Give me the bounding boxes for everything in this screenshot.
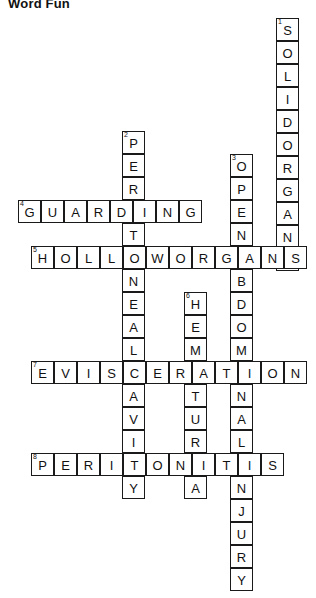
- crossword-cell[interactable]: N: [284, 361, 307, 384]
- crossword-cell[interactable]: R: [122, 177, 145, 200]
- crossword-cell[interactable]: A: [192, 361, 215, 384]
- crossword-cell[interactable]: N: [261, 246, 284, 269]
- crossword-cell[interactable]: L: [230, 430, 253, 453]
- crossword-cell[interactable]: R: [276, 156, 299, 179]
- crossword-cell[interactable]: I: [122, 430, 145, 453]
- crossword-cell[interactable]: R: [169, 361, 192, 384]
- cell-number: 1: [278, 18, 282, 26]
- crossword-cell[interactable]: C: [123, 361, 146, 384]
- crossword-cell[interactable]: S: [261, 453, 284, 476]
- crossword-cell[interactable]: H6: [184, 292, 207, 315]
- crossword-cell[interactable]: H5: [31, 246, 54, 269]
- crossword-cell[interactable]: T: [215, 361, 238, 384]
- crossword-cell[interactable]: Y: [122, 476, 145, 499]
- crossword-cell[interactable]: E: [122, 292, 145, 315]
- crossword-cell[interactable]: L: [77, 246, 100, 269]
- crossword-cell[interactable]: E: [230, 200, 253, 223]
- crossword-cell[interactable]: A: [122, 384, 145, 407]
- crossword-cell[interactable]: A: [238, 246, 261, 269]
- crossword-cell[interactable]: J: [230, 499, 253, 522]
- crossword-cell[interactable]: A: [122, 315, 145, 338]
- crossword-cell[interactable]: I: [238, 453, 261, 476]
- crossword-cell[interactable]: E: [146, 361, 169, 384]
- crossword-cell[interactable]: N: [169, 453, 192, 476]
- crossword-cell[interactable]: R: [77, 453, 100, 476]
- crossword-cell[interactable]: O: [261, 361, 284, 384]
- crossword-cell[interactable]: P: [230, 177, 253, 200]
- crossword-cell[interactable]: I: [192, 453, 215, 476]
- crossword-cell[interactable]: N: [276, 225, 299, 248]
- crossword-cell[interactable]: M: [230, 338, 253, 361]
- crossword-cell[interactable]: O: [54, 246, 77, 269]
- cell-letter: S: [101, 362, 122, 383]
- crossword-cell[interactable]: Y: [230, 568, 253, 591]
- crossword-cell[interactable]: O3: [230, 154, 253, 177]
- crossword-cell[interactable]: A: [184, 476, 207, 499]
- crossword-cell[interactable]: A: [64, 200, 87, 223]
- crossword-cell[interactable]: P8: [31, 453, 54, 476]
- crossword-cell[interactable]: M: [184, 338, 207, 361]
- cell-letter: I: [193, 454, 214, 475]
- cell-letter: E: [147, 362, 168, 383]
- cell-letter: P: [231, 178, 252, 199]
- crossword-cell[interactable]: E7: [31, 361, 54, 384]
- crossword-cell[interactable]: N: [230, 223, 253, 246]
- cell-letter: R: [78, 454, 99, 475]
- crossword-cell[interactable]: R: [184, 430, 207, 453]
- crossword-cell[interactable]: L: [100, 246, 123, 269]
- crossword-cell[interactable]: T: [123, 453, 146, 476]
- crossword-cell[interactable]: O: [123, 246, 146, 269]
- crossword-cell[interactable]: I: [133, 200, 156, 223]
- cell-letter: R: [123, 178, 144, 199]
- crossword-cell[interactable]: I: [100, 453, 123, 476]
- crossword-cell[interactable]: B: [230, 269, 253, 292]
- crossword-cell[interactable]: S1: [276, 18, 299, 41]
- crossword-cell[interactable]: G: [276, 179, 299, 202]
- crossword-cell[interactable]: U: [230, 522, 253, 545]
- crossword-cell[interactable]: P2: [122, 131, 145, 154]
- crossword-cell[interactable]: S: [284, 246, 307, 269]
- crossword-cell[interactable]: R: [192, 246, 215, 269]
- crossword-cell[interactable]: W: [146, 246, 169, 269]
- crossword-cell[interactable]: L: [122, 338, 145, 361]
- crossword-cell[interactable]: A: [230, 407, 253, 430]
- crossword-cell[interactable]: T: [215, 453, 238, 476]
- crossword-cell[interactable]: I: [77, 361, 100, 384]
- crossword-cell[interactable]: L: [276, 64, 299, 87]
- cell-letter: D: [277, 111, 298, 132]
- crossword-cell[interactable]: R: [87, 200, 110, 223]
- crossword-cell[interactable]: G: [215, 246, 238, 269]
- crossword-cell[interactable]: D: [230, 292, 253, 315]
- crossword-cell[interactable]: A: [276, 202, 299, 225]
- crossword-cell[interactable]: V: [122, 407, 145, 430]
- crossword-cell[interactable]: O: [276, 41, 299, 64]
- crossword-cell[interactable]: S: [100, 361, 123, 384]
- crossword-cell[interactable]: O: [169, 246, 192, 269]
- cell-letter: O: [231, 316, 252, 337]
- crossword-cell[interactable]: O: [230, 315, 253, 338]
- crossword-cell[interactable]: O: [146, 453, 169, 476]
- crossword-cell[interactable]: G: [179, 200, 202, 223]
- crossword-cell[interactable]: I: [238, 361, 261, 384]
- crossword-cell[interactable]: U: [184, 407, 207, 430]
- cell-letter: E: [123, 155, 144, 176]
- crossword-cell[interactable]: E: [184, 315, 207, 338]
- crossword-cell[interactable]: N: [230, 476, 253, 499]
- crossword-cell[interactable]: N: [122, 269, 145, 292]
- crossword-cell[interactable]: R: [230, 545, 253, 568]
- crossword-cell[interactable]: U: [41, 200, 64, 223]
- crossword-cell[interactable]: O: [276, 133, 299, 156]
- crossword-cell[interactable]: D: [110, 200, 133, 223]
- crossword-cell[interactable]: E: [122, 154, 145, 177]
- crossword-cell[interactable]: T: [184, 384, 207, 407]
- crossword-cell[interactable]: N: [156, 200, 179, 223]
- crossword-cell[interactable]: I: [276, 87, 299, 110]
- cell-number: 7: [33, 361, 37, 369]
- crossword-cell[interactable]: D: [276, 110, 299, 133]
- crossword-cell[interactable]: V: [54, 361, 77, 384]
- crossword-cell[interactable]: E: [54, 453, 77, 476]
- cell-letter: A: [231, 408, 252, 429]
- crossword-cell[interactable]: T: [122, 223, 145, 246]
- crossword-cell[interactable]: G4: [18, 200, 41, 223]
- crossword-cell[interactable]: N: [230, 384, 253, 407]
